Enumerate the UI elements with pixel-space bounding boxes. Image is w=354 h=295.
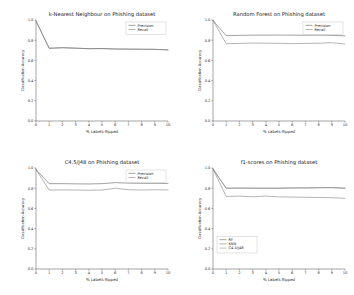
- y-tick-label: 1.0: [205, 166, 211, 170]
- y-tick-label: 0.4: [205, 79, 211, 83]
- x-tick-label: 5: [278, 123, 280, 127]
- y-tick-label: 0.6: [28, 59, 34, 63]
- x-tick-label: 0: [212, 271, 215, 275]
- x-tick-label: 10: [166, 123, 171, 127]
- y-tick-label: 0.0: [28, 267, 34, 271]
- x-tick-label: 6: [291, 123, 294, 127]
- chart-title: C4.5/J48 on Phishing dataset: [65, 159, 140, 166]
- figure-canvas: k-Nearest Neighbour on Phishing dataset0…: [0, 0, 354, 295]
- y-tick-label: 1.0: [28, 166, 34, 170]
- legend-label: Recall: [138, 176, 149, 180]
- x-tick-label: 9: [154, 271, 157, 275]
- y-tick-label: 0.8: [28, 187, 34, 191]
- y-tick-label: 0.6: [205, 207, 211, 211]
- chart-panel-knn: k-Nearest Neighbour on Phishing dataset0…: [0, 0, 177, 147]
- x-tick-label: 5: [278, 271, 280, 275]
- x-tick-label: 0: [35, 271, 38, 275]
- chart-svg-random-forest: Random Forest on Phishing dataset0.00.20…: [177, 0, 354, 147]
- x-tick-label: 5: [101, 271, 103, 275]
- chart-panel-f1-scores: f1-scores on Phishing dataset0.00.20.40.…: [177, 148, 354, 295]
- x-tick-label: 1: [225, 271, 227, 275]
- x-tick-label: 7: [127, 271, 129, 275]
- x-tick-label: 6: [114, 271, 117, 275]
- y-tick-label: 0.0: [28, 119, 34, 123]
- y-tick-label: 0.2: [205, 247, 211, 251]
- y-axis-label: Classification Accuracy: [198, 197, 202, 239]
- x-tick-label: 3: [74, 123, 76, 127]
- y-tick-label: 1.0: [28, 18, 34, 22]
- chart-svg-f1-scores: f1-scores on Phishing dataset0.00.20.40.…: [177, 148, 354, 295]
- y-tick-label: 0.2: [28, 99, 34, 103]
- x-tick-label: 8: [317, 123, 320, 127]
- series-line-rf: [213, 169, 345, 188]
- x-tick-label: 5: [101, 123, 103, 127]
- y-axis-label: Classification Accuracy: [21, 49, 25, 91]
- x-tick-label: 3: [251, 123, 253, 127]
- x-axis-label: % Labels flipped: [86, 277, 119, 282]
- x-tick-label: 1: [225, 123, 227, 127]
- x-tick-label: 7: [127, 123, 129, 127]
- x-tick-label: 1: [48, 271, 50, 275]
- x-axis-label: % Labels flipped: [263, 277, 296, 282]
- y-tick-label: 0.6: [28, 207, 34, 211]
- chart-panel-c45: C4.5/J48 on Phishing dataset0.00.20.40.6…: [0, 148, 177, 295]
- x-tick-label: 8: [317, 271, 320, 275]
- x-tick-label: 3: [74, 271, 76, 275]
- y-tick-label: 1.0: [205, 18, 211, 22]
- x-tick-label: 6: [114, 123, 117, 127]
- x-tick-label: 10: [166, 271, 171, 275]
- x-tick-label: 4: [265, 123, 268, 127]
- x-tick-label: 2: [238, 271, 240, 275]
- x-tick-label: 4: [265, 271, 268, 275]
- y-tick-label: 0.2: [205, 99, 211, 103]
- legend-label: Recall: [315, 28, 326, 32]
- series-line-c4-5-j48: [213, 169, 345, 188]
- x-tick-label: 4: [88, 123, 91, 127]
- y-tick-label: 0.8: [28, 39, 34, 43]
- x-tick-label: 8: [140, 123, 143, 127]
- x-tick-label: 2: [61, 123, 63, 127]
- chart-title: k-Nearest Neighbour on Phishing dataset: [49, 11, 156, 18]
- y-axis-label: Classification Accuracy: [198, 49, 202, 91]
- chart-svg-knn: k-Nearest Neighbour on Phishing dataset0…: [0, 0, 177, 147]
- x-tick-label: 2: [61, 271, 63, 275]
- x-tick-label: 0: [212, 123, 215, 127]
- x-tick-label: 6: [291, 271, 294, 275]
- x-tick-label: 9: [154, 123, 157, 127]
- chart-svg-c45: C4.5/J48 on Phishing dataset0.00.20.40.6…: [0, 148, 177, 295]
- axis-spines: [213, 168, 345, 269]
- chart-title: Random Forest on Phishing dataset: [233, 11, 325, 18]
- y-tick-label: 0.4: [205, 227, 211, 231]
- x-tick-label: 9: [331, 123, 334, 127]
- legend-box: [217, 236, 257, 253]
- x-axis-label: % Labels flipped: [263, 129, 296, 134]
- y-tick-label: 0.0: [205, 119, 211, 123]
- axis-spines: [36, 20, 168, 121]
- y-tick-label: 0.4: [28, 227, 34, 231]
- x-tick-label: 7: [304, 123, 306, 127]
- x-tick-label: 0: [35, 123, 38, 127]
- y-tick-label: 0.4: [28, 79, 34, 83]
- x-tick-label: 10: [343, 123, 348, 127]
- chart-title: f1-scores on Phishing dataset: [241, 159, 318, 166]
- y-tick-label: 0.2: [28, 247, 34, 251]
- x-tick-label: 7: [304, 271, 306, 275]
- y-tick-label: 0.0: [205, 267, 211, 271]
- x-tick-label: 8: [140, 271, 143, 275]
- x-tick-label: 4: [88, 271, 91, 275]
- x-tick-label: 10: [343, 271, 348, 275]
- y-tick-label: 0.6: [205, 59, 211, 63]
- legend-label: Recall: [138, 28, 149, 32]
- x-tick-label: 3: [251, 271, 253, 275]
- legend-label: C4.5/J48: [229, 246, 245, 250]
- y-axis-label: Classification Accuracy: [21, 197, 25, 239]
- x-tick-label: 2: [238, 123, 240, 127]
- chart-panel-random-forest: Random Forest on Phishing dataset0.00.20…: [177, 0, 354, 147]
- series-line-knn: [213, 169, 345, 198]
- y-tick-label: 0.8: [205, 39, 211, 43]
- x-tick-label: 9: [331, 271, 334, 275]
- y-tick-label: 0.8: [205, 187, 211, 191]
- x-tick-label: 1: [48, 123, 50, 127]
- x-axis-label: % Labels flipped: [86, 129, 119, 134]
